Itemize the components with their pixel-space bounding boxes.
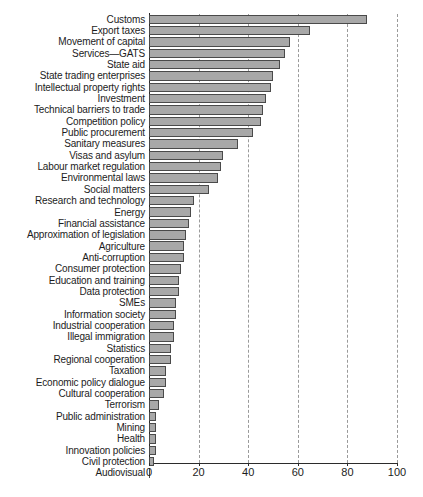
bar-track bbox=[149, 196, 423, 207]
bar-row: Intellectual property rights bbox=[0, 82, 423, 93]
bar bbox=[149, 139, 238, 148]
bar-category-label: Data protection bbox=[0, 287, 149, 297]
bar bbox=[149, 446, 156, 455]
bar-category-label: Anti-corruption bbox=[0, 253, 149, 263]
bar-track bbox=[149, 184, 423, 195]
bar-category-label: Agriculture bbox=[0, 242, 149, 252]
bar bbox=[149, 15, 367, 24]
bar-category-label: Customs bbox=[0, 15, 149, 25]
bar bbox=[149, 332, 174, 341]
bar-category-label: Industrial cooperation bbox=[0, 321, 149, 331]
bar-category-label: Technical barriers to trade bbox=[0, 105, 149, 115]
bar-category-label: Illegal immigration bbox=[0, 332, 149, 342]
bar-track bbox=[149, 343, 423, 354]
bar bbox=[149, 207, 191, 216]
bar-row: Terrorism bbox=[0, 400, 423, 411]
bar bbox=[149, 185, 209, 194]
x-tick-label: 60 bbox=[292, 466, 304, 479]
bar-track bbox=[149, 150, 423, 161]
bar-row: Education and training bbox=[0, 275, 423, 286]
bar bbox=[149, 173, 218, 182]
bar bbox=[149, 71, 273, 80]
bar-category-label: Terrorism bbox=[0, 400, 149, 410]
bar-row: Statistics bbox=[0, 343, 423, 354]
bar-row: Taxation bbox=[0, 366, 423, 377]
bar-category-label: Services—GATS bbox=[0, 49, 149, 59]
bar-rows: CustomsExport taxesMovement of capitalSe… bbox=[0, 14, 423, 479]
bar-track bbox=[149, 388, 423, 399]
bar-track bbox=[149, 25, 423, 36]
bar-category-label: Health bbox=[0, 434, 149, 444]
bar bbox=[149, 355, 171, 364]
bar bbox=[149, 94, 266, 103]
bar bbox=[149, 366, 166, 375]
bar-category-label: Information society bbox=[0, 310, 149, 320]
bar-track bbox=[149, 286, 423, 297]
bar-track bbox=[149, 127, 423, 138]
bar-row: Sanitary measures bbox=[0, 139, 423, 150]
bar-category-label: Visas and asylum bbox=[0, 151, 149, 161]
bar-track bbox=[149, 298, 423, 309]
bar-track bbox=[149, 207, 423, 218]
bar bbox=[149, 219, 189, 228]
bar-track bbox=[149, 354, 423, 365]
bar-category-label: Labour market regulation bbox=[0, 162, 149, 172]
x-tick-label: 40 bbox=[242, 466, 254, 479]
bar-category-label: Intellectual property rights bbox=[0, 83, 149, 93]
bar-track bbox=[149, 264, 423, 275]
bar-row: Public administration bbox=[0, 411, 423, 422]
bar-category-label: Economic policy dialogue bbox=[0, 378, 149, 388]
x-tick-label: 20 bbox=[192, 466, 204, 479]
bar-category-label: Public administration bbox=[0, 412, 149, 422]
bar-row: Customs bbox=[0, 14, 423, 25]
bar-track bbox=[149, 59, 423, 70]
bar-row: Industrial cooperation bbox=[0, 320, 423, 331]
bar-track bbox=[149, 139, 423, 150]
bar-track bbox=[149, 275, 423, 286]
bar-row: State aid bbox=[0, 59, 423, 70]
bar-track bbox=[149, 241, 423, 252]
bar bbox=[149, 117, 261, 126]
bar-row: Environmental laws bbox=[0, 173, 423, 184]
bar-track bbox=[149, 400, 423, 411]
bar bbox=[149, 434, 156, 443]
bar-track bbox=[149, 366, 423, 377]
bar-row: Cultural cooperation bbox=[0, 388, 423, 399]
bar-row: Mining bbox=[0, 422, 423, 433]
bar-row: Movement of capital bbox=[0, 37, 423, 48]
bar-track bbox=[149, 377, 423, 388]
bar bbox=[149, 310, 176, 319]
bar-row: Data protection bbox=[0, 286, 423, 297]
bar-category-label: Regional cooperation bbox=[0, 355, 149, 365]
bar-track bbox=[149, 161, 423, 172]
bar-category-label: Innovation policies bbox=[0, 446, 149, 456]
bar bbox=[149, 287, 179, 296]
bar-category-label: Education and training bbox=[0, 276, 149, 286]
bar-category-label: Sanitary measures bbox=[0, 139, 149, 149]
bar-track bbox=[149, 173, 423, 184]
x-axis-tick-labels: 020406080100 bbox=[0, 466, 423, 486]
bar-category-label: State trading enterprises bbox=[0, 71, 149, 81]
bar-category-label: Energy bbox=[0, 208, 149, 218]
bar-category-label: Statistics bbox=[0, 344, 149, 354]
bar-track bbox=[149, 434, 423, 445]
bar-row: Labour market regulation bbox=[0, 161, 423, 172]
bar-row: Competition policy bbox=[0, 116, 423, 127]
bar-row: Public procurement bbox=[0, 127, 423, 138]
bar bbox=[149, 423, 156, 432]
bar bbox=[149, 241, 184, 250]
bar bbox=[149, 128, 253, 137]
bar-row: Anti-corruption bbox=[0, 252, 423, 263]
bar bbox=[149, 37, 290, 46]
bar bbox=[149, 162, 221, 171]
bar bbox=[149, 264, 181, 273]
bar-row: Visas and asylum bbox=[0, 150, 423, 161]
bar-track bbox=[149, 48, 423, 59]
bar-category-label: Research and technology bbox=[0, 196, 149, 206]
x-tick-label: 0 bbox=[146, 466, 152, 479]
bar-row: Social matters bbox=[0, 184, 423, 195]
bar-track bbox=[149, 422, 423, 433]
bar-category-label: Export taxes bbox=[0, 26, 149, 36]
bar bbox=[149, 321, 174, 330]
bar-row: Information society bbox=[0, 309, 423, 320]
